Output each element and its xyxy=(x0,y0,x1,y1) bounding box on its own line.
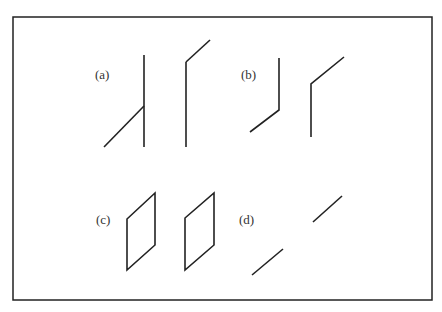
panel-a-shape-2 xyxy=(104,106,144,147)
panel-label-a: (a) xyxy=(95,67,109,83)
panel-label-c: (c) xyxy=(96,212,110,228)
panel-a-shape-4 xyxy=(186,40,210,62)
figure-canvas xyxy=(0,0,442,312)
panel-c-shape-1 xyxy=(127,193,155,270)
panel-d-shape-2 xyxy=(252,249,283,275)
figure-shapes xyxy=(104,40,344,275)
panel-c-shape-2 xyxy=(185,193,214,270)
panel-label-d: (d) xyxy=(239,212,254,228)
panel-b-shape-2 xyxy=(311,57,344,137)
panel-label-b: (b) xyxy=(241,67,256,83)
panel-d-shape-1 xyxy=(313,196,342,222)
figure-frame xyxy=(13,17,432,300)
